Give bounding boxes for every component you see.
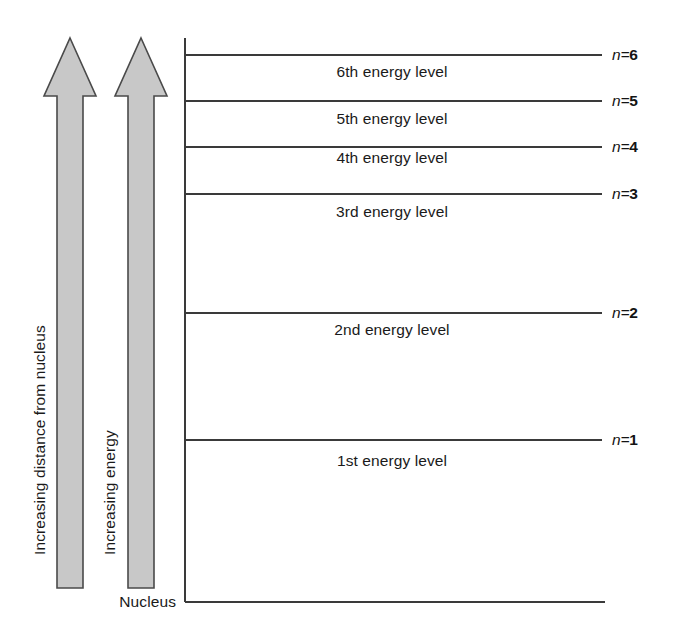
quantum-number-value: 5 xyxy=(629,92,638,109)
nucleus-label: Nucleus xyxy=(119,593,176,611)
quantum-number-value: 2 xyxy=(629,304,638,321)
energy-level-label: 5th energy level xyxy=(336,110,447,128)
energy-level-label: 2nd energy level xyxy=(334,321,449,339)
quantum-number-label: n=5 xyxy=(612,92,638,110)
quantum-number-symbol: n xyxy=(612,185,621,202)
increasing-energy-arrow xyxy=(115,38,167,588)
equals-sign: = xyxy=(621,431,630,448)
quantum-number-symbol: n xyxy=(612,46,621,63)
equals-sign: = xyxy=(621,304,630,321)
quantum-number-symbol: n xyxy=(612,304,621,321)
quantum-number-label: n=3 xyxy=(612,185,638,203)
quantum-number-label: n=2 xyxy=(612,304,638,322)
quantum-number-symbol: n xyxy=(612,431,621,448)
equals-sign: = xyxy=(621,92,630,109)
increasing-energy-caption: Increasing energy xyxy=(101,430,119,555)
energy-level-label: 6th energy level xyxy=(336,63,447,81)
quantum-number-value: 6 xyxy=(629,46,638,63)
energy-level-label: 3rd energy level xyxy=(336,203,448,221)
quantum-number-value: 3 xyxy=(629,185,638,202)
equals-sign: = xyxy=(621,138,630,155)
energy-level-diagram: Increasing distance from nucleus Increas… xyxy=(0,0,682,633)
energy-level-label: 4th energy level xyxy=(336,149,447,167)
quantum-number-label: n=6 xyxy=(612,46,638,64)
quantum-number-symbol: n xyxy=(612,138,621,155)
equals-sign: = xyxy=(621,185,630,202)
quantum-number-value: 1 xyxy=(629,431,638,448)
increasing-distance-caption: Increasing distance from nucleus xyxy=(31,325,49,555)
quantum-number-symbol: n xyxy=(612,92,621,109)
quantum-number-value: 4 xyxy=(629,138,638,155)
quantum-number-label: n=1 xyxy=(612,431,638,449)
energy-level-label: 1st energy level xyxy=(337,452,447,470)
increasing-distance-arrow xyxy=(44,38,96,588)
equals-sign: = xyxy=(621,46,630,63)
quantum-number-label: n=4 xyxy=(612,138,638,156)
